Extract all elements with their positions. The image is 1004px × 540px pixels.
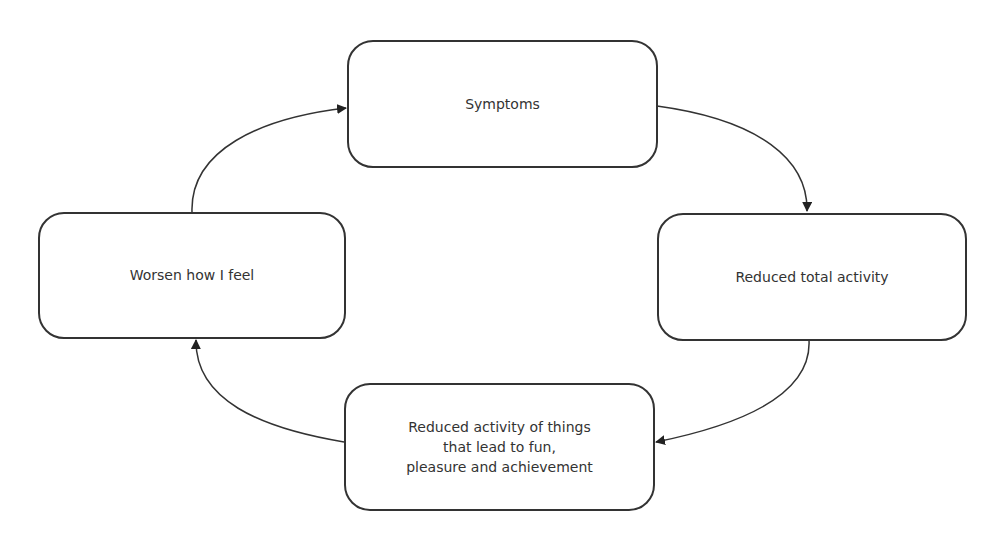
node-label: Worsen how I feel — [130, 265, 255, 285]
node-symptoms: Symptoms — [347, 40, 658, 168]
arrow-worsen-to-symptoms — [192, 108, 346, 212]
node-label: Symptoms — [465, 94, 540, 114]
node-reduced-fun-activity: Reduced activity of things that lead to … — [344, 383, 655, 511]
node-worsen-how-i-feel: Worsen how I feel — [38, 212, 346, 339]
node-label: Reduced activity of things that lead to … — [406, 417, 593, 478]
arrow-reduced-fun-to-worsen — [196, 340, 344, 442]
node-label: Reduced total activity — [735, 267, 888, 287]
node-reduced-total-activity: Reduced total activity — [657, 213, 967, 341]
arrow-reduced-total-to-reduced-fun — [656, 340, 809, 442]
arrow-symptoms-to-reduced-total — [657, 106, 807, 211]
